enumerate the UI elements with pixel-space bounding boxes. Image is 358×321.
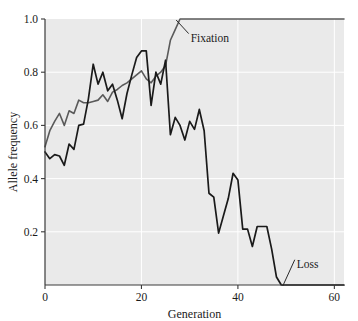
y-tick-label: 0.6 — [24, 119, 39, 131]
y-tick-label: 1.0 — [24, 13, 39, 25]
allele-frequency-chart: 0.20.40.60.81.0 0204060 FixationLoss Gen… — [0, 0, 358, 321]
x-tick-label: 60 — [329, 291, 341, 303]
y-axis-ticks: 0.20.40.60.81.0 — [24, 13, 45, 238]
y-tick-label: 0.2 — [24, 226, 39, 238]
y-tick-label: 0.4 — [24, 173, 39, 185]
x-tick-label: 0 — [42, 291, 48, 303]
x-axis-title: Generation — [168, 307, 221, 321]
x-tick-label: 20 — [136, 291, 148, 303]
y-tick-label: 0.8 — [24, 66, 39, 78]
plot-area-background — [45, 19, 344, 285]
annotation-label-loss: Loss — [297, 258, 319, 270]
chart-canvas: 0.20.40.60.81.0 0204060 FixationLoss Gen… — [0, 0, 358, 321]
y-axis-title: Allele frequency — [6, 112, 20, 192]
x-axis-ticks: 0204060 — [42, 285, 340, 303]
annotation-label-fixation: Fixation — [191, 32, 230, 44]
x-tick-label: 40 — [232, 291, 244, 303]
